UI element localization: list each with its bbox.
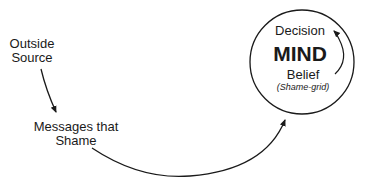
mind-decision-label: Decision: [268, 24, 332, 38]
mind-note-label: (Shame-grid): [268, 82, 338, 92]
outside-source-label: Outside Source: [8, 37, 56, 65]
mind-belief-label: Belief: [278, 68, 328, 82]
messages-line1: Messages that: [26, 120, 126, 134]
arrow-source-to-messages: [41, 69, 56, 112]
mind-title: MIND: [264, 43, 336, 65]
messages-label: Messages that Shame: [26, 120, 126, 148]
messages-line2: Shame: [26, 134, 126, 148]
outside-source-line1: Outside: [8, 37, 56, 51]
outside-source-line2: Source: [8, 51, 56, 65]
